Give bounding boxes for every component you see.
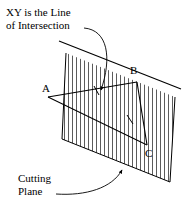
cutting-plane-shape (55, 45, 182, 190)
vertex-label-a: A (42, 83, 50, 94)
caption-cutting-plane-line2: Plane (18, 185, 51, 198)
caption-intersection-line2: of Intersection (6, 19, 71, 32)
plane-hatching (55, 45, 182, 190)
vertex-label-c: C (145, 148, 152, 159)
leader-cutting-plane-line (56, 170, 122, 194)
vertex-label-b: B (130, 65, 137, 76)
caption-intersection: XY is the Line of Intersection (6, 6, 71, 32)
caption-cutting-plane-line1: Cutting (18, 172, 51, 185)
caption-intersection-line1: XY is the Line (6, 6, 71, 19)
figure-canvas: XY is the Line of Intersection Cutting P… (0, 0, 182, 207)
caption-cutting-plane: Cutting Plane (18, 172, 51, 198)
